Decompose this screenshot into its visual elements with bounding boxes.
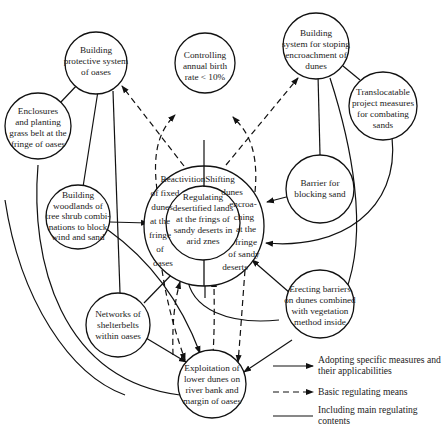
label-barrier: Barrier forblocking sand	[294, 178, 346, 199]
label-enclosures: Enclosuresand plantinggrass belt at thef…	[9, 106, 66, 149]
label-shelterbelts: Networks ofshelterbeltswithin oases	[95, 309, 142, 341]
legend-label-basic-means: Basic regulating means	[318, 386, 408, 397]
diagram-canvas: Regulatingdesertified landsat the frings…	[0, 0, 442, 435]
regulation-diagram: Regulatingdesertified landsat the frings…	[0, 0, 442, 435]
legend: Adopting specific measures andtheir appl…	[273, 354, 441, 426]
label-birth: Controllingannual birthrate < 10%	[183, 50, 228, 82]
label-exploitation: Exploitation oflower dunes onriver bank …	[183, 363, 241, 406]
legend-label-main-contents: Including main regulatingcontents	[318, 404, 418, 426]
legend-label-specific-measures: Adopting specific measures andtheir appl…	[318, 354, 441, 376]
node-exploitation	[178, 350, 246, 418]
label-erecting: Erecting barrierson dunes combinedwith v…	[284, 284, 356, 327]
